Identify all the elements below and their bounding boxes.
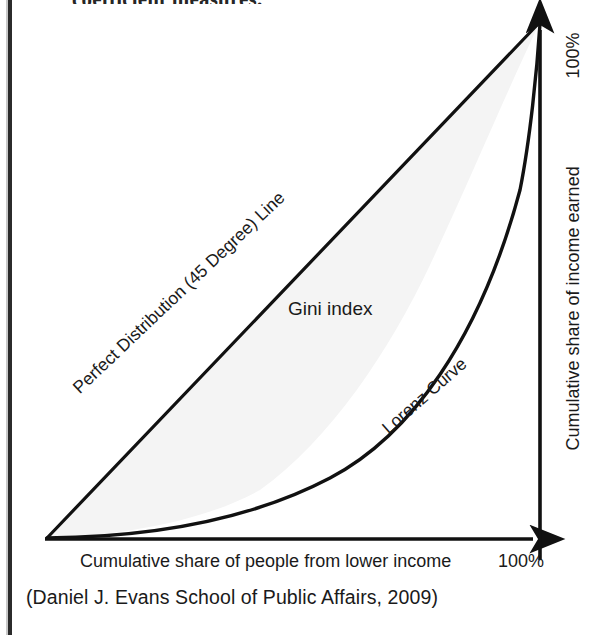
figure-caption: (Daniel J. Evans School of Public Affair… <box>26 586 438 609</box>
x-axis-max-tick-label: 100% <box>498 551 544 572</box>
y-axis-max-tick-label: 100% <box>563 32 584 78</box>
gini-index-label: Gini index <box>288 298 373 320</box>
scanned-page: coefficient measures. Perfect Distributi… <box>0 0 613 635</box>
x-axis-label: Cumulative share of people from lower in… <box>80 551 451 572</box>
y-axis-label: Cumulative share of income earned <box>563 166 584 450</box>
